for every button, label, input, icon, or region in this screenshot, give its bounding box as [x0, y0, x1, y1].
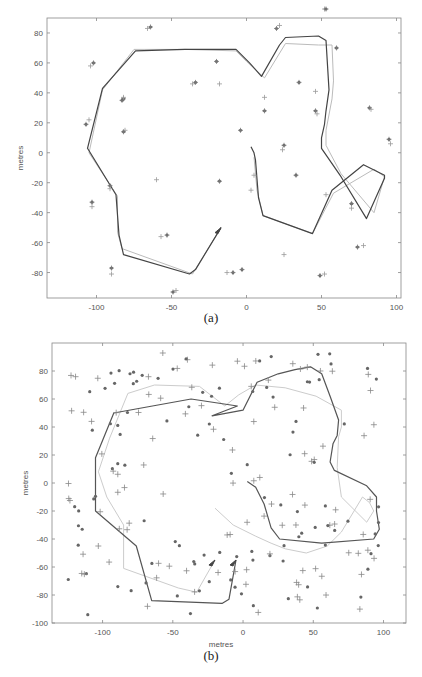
landmark-true-marker [329, 368, 335, 374]
landmark-estimate-marker [326, 524, 329, 527]
landmark-estimate-marker [366, 367, 369, 370]
landmark-estimate-marker [291, 430, 294, 433]
landmark-true-marker [319, 573, 325, 579]
landmark-true-marker [317, 368, 323, 374]
landmark-estimate-marker [306, 380, 309, 383]
landmark-true-marker [257, 474, 263, 480]
landmark-estimate-marker [91, 429, 94, 432]
landmark-true-marker [297, 80, 302, 85]
landmark-estimate-marker [81, 528, 84, 531]
landmark-estimate-marker [174, 540, 177, 543]
landmark-true-marker [227, 532, 233, 538]
landmark-true-marker [387, 137, 392, 142]
landmark-true-marker [160, 350, 166, 356]
landmark-estimate-marker [208, 580, 211, 583]
landmark-true-marker [146, 391, 152, 397]
landmark-estimate-marker [263, 496, 266, 499]
landmark-true-marker [115, 471, 121, 477]
landmark-estimate-marker [77, 544, 80, 547]
y-tick-label: 40 [39, 423, 48, 432]
landmark-estimate-marker [282, 544, 285, 547]
landmark-estimate-marker [67, 578, 70, 581]
true-path-line [89, 44, 385, 275]
landmark-true-marker [302, 502, 308, 508]
plot-frame [47, 18, 401, 298]
landmark-true-marker [300, 568, 306, 574]
landmark-estimate-marker [128, 372, 131, 375]
landmark-true-marker [371, 555, 377, 561]
y-tick-label: 40 [34, 89, 43, 98]
landmark-true-marker [262, 108, 267, 113]
y-tick-label: 60 [34, 59, 43, 68]
landmark-true-marker [158, 395, 164, 401]
landmark-true-marker [150, 436, 156, 442]
landmark-true-marker [90, 204, 95, 209]
landmark-estimate-marker [171, 367, 174, 370]
landmark-estimate-marker [198, 589, 201, 592]
landmark-estimate-marker [279, 503, 282, 506]
landmark-estimate-marker [118, 369, 121, 372]
landmark-true-marker [165, 233, 170, 238]
landmark-true-marker [141, 462, 147, 468]
landmark-estimate-marker [86, 613, 89, 616]
landmark-true-marker [229, 447, 235, 453]
landmark-estimate-marker [73, 505, 76, 508]
landmark-estimate-marker [103, 387, 106, 390]
y-tick-label: 20 [39, 451, 48, 460]
landmark-estimate-marker [135, 380, 138, 383]
landmark-true-marker [81, 409, 87, 415]
landmark-estimate-marker [287, 597, 290, 600]
x-tick-label: 100 [377, 628, 391, 637]
landmark-true-marker [333, 507, 339, 513]
landmark-true-marker [154, 177, 159, 182]
landmark-estimate-marker [346, 520, 349, 523]
landmark-true-marker [304, 364, 310, 370]
landmark-true-marker [282, 143, 287, 148]
landmark-estimate-marker [343, 422, 346, 425]
landmark-true-marker [332, 521, 338, 527]
y-tick-label: -40 [31, 209, 43, 218]
landmark-estimate-marker [258, 359, 261, 362]
landmark-true-marker [277, 23, 282, 28]
landmark-estimate-marker [375, 377, 378, 380]
landmark-estimate-marker [271, 395, 274, 398]
landmark-true-marker [293, 522, 299, 528]
figure-a: -100-50050100-80-60-40-20020406080metres… [0, 0, 422, 318]
landmark-true-marker [324, 192, 329, 197]
landmark-true-marker [360, 531, 366, 537]
landmark-estimate-marker [324, 544, 327, 547]
landmark-true-marker [334, 45, 339, 50]
landmark-true-marker [225, 270, 230, 275]
landmark-estimate-marker [328, 352, 331, 355]
landmark-true-marker [238, 128, 243, 133]
landmark-true-marker [91, 60, 96, 65]
landmark-true-marker [355, 245, 360, 250]
landmark-true-marker [251, 478, 257, 484]
landmark-estimate-marker [132, 382, 135, 385]
landmark-estimate-marker [132, 371, 135, 374]
landmark-true-marker [365, 547, 371, 553]
landmark-true-marker [80, 551, 86, 557]
landmark-true-marker [294, 173, 299, 178]
landmark-true-marker [279, 522, 285, 528]
landmark-true-marker [240, 267, 245, 272]
landmark-true-marker [159, 234, 164, 239]
landmark-true-marker [106, 559, 112, 565]
landmark-true-marker [241, 363, 247, 369]
x-tick-label: 0 [241, 628, 246, 637]
y-tick-label: -80 [31, 269, 43, 278]
landmark-true-marker [88, 63, 93, 68]
landmark-true-marker [79, 570, 85, 576]
landmark-estimate-marker [366, 568, 369, 571]
landmark-true-marker [267, 551, 273, 557]
y-tick-label: 0 [39, 149, 44, 158]
landmark-true-marker [73, 374, 79, 380]
estimated-path-line [88, 36, 385, 274]
landmark-true-marker [272, 404, 278, 410]
landmark-estimate-marker [178, 544, 181, 547]
landmark-estimate-marker [109, 372, 112, 375]
landmark-estimate-marker [251, 558, 254, 561]
landmark-true-marker [355, 550, 361, 556]
landmark-true-marker [269, 501, 275, 507]
landmark-estimate-marker [218, 387, 221, 390]
